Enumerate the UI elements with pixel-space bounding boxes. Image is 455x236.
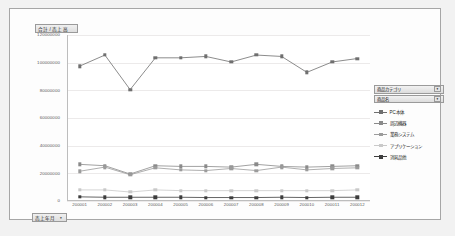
- y-axis-tick-label: 40000000: [40, 143, 60, 148]
- series-marker: [356, 188, 359, 191]
- legend-item[interactable]: アプリケーション: [374, 140, 444, 151]
- series-marker: [103, 188, 106, 191]
- y-axis-tick-label: 0: [57, 198, 60, 203]
- series-marker: [280, 165, 283, 168]
- series-marker: [229, 167, 232, 170]
- series-marker: [103, 53, 106, 56]
- series-lines: [67, 35, 370, 201]
- x-axis-tick-label: 200012: [350, 202, 365, 207]
- x-axis-tick-label: 200003: [123, 202, 138, 207]
- series-marker: [204, 55, 207, 58]
- axis-field-button[interactable]: 売上年月 ▾: [32, 213, 67, 222]
- series-marker: [78, 64, 81, 67]
- series-marker: [103, 196, 106, 199]
- series-marker: [204, 165, 207, 168]
- series-marker: [204, 169, 207, 172]
- plot-area: [67, 35, 370, 201]
- legend-items: PC本体周辺機器業務システムアプリケーション消耗品他: [374, 107, 444, 163]
- legend-marker-icon: [374, 120, 387, 127]
- series-marker: [78, 163, 81, 166]
- legend-item-label: PC本体: [390, 109, 405, 115]
- y-axis-tick-label: 100000000: [37, 60, 60, 65]
- series-marker: [204, 189, 207, 192]
- y-axis-labels: 0200000004000000060000000800000001000000…: [10, 9, 64, 221]
- y-axis-tick-label: 60000000: [40, 115, 60, 120]
- legend-marker-icon: [374, 131, 387, 138]
- legend-marker-icon: [374, 153, 387, 160]
- legend-item-label: 消耗品他: [390, 154, 406, 160]
- x-axis-tick-label: 200006: [198, 202, 213, 207]
- series-marker: [255, 196, 258, 199]
- series-marker: [179, 56, 182, 59]
- series-marker: [78, 170, 81, 173]
- category-filter-arrow-icon: ▾: [434, 86, 441, 92]
- x-axis-tick-label: 200011: [325, 202, 340, 207]
- legend-item[interactable]: 周辺機器: [374, 118, 444, 129]
- series-marker: [305, 196, 308, 199]
- legend-item[interactable]: 業務システム: [374, 129, 444, 140]
- y-axis-tick-label: 80000000: [40, 88, 60, 93]
- legend-item[interactable]: 消耗品他: [374, 151, 444, 162]
- series-marker: [330, 189, 333, 192]
- category-filter-button[interactable]: 商品カテゴリ ▾: [374, 85, 444, 94]
- pivotchart-app: 合計 / 売上高 0200000004000000060000000800000…: [0, 0, 455, 236]
- product-filter-label: 商品名: [377, 96, 434, 102]
- x-axis-tick-label: 200008: [249, 202, 264, 207]
- x-axis-tick-label: 200004: [148, 202, 163, 207]
- axis-field-label: 売上年月: [35, 215, 58, 221]
- category-filter-label: 商品カテゴリ: [377, 86, 434, 92]
- series-marker: [128, 173, 131, 176]
- x-axis-tick-label: 200009: [274, 202, 289, 207]
- series-marker: [255, 189, 258, 192]
- legend-marker-icon: [374, 109, 387, 116]
- series-marker: [330, 196, 333, 199]
- series-marker: [128, 196, 131, 199]
- series-marker: [305, 189, 308, 192]
- y-axis-tick-label: 120000000: [37, 32, 60, 37]
- legend-item-label: アプリケーション: [390, 143, 423, 149]
- x-axis-tick-label: 200007: [224, 202, 239, 207]
- series-marker: [356, 196, 359, 199]
- series-marker: [154, 196, 157, 199]
- series-marker: [179, 168, 182, 171]
- series-marker: [330, 167, 333, 170]
- x-axis-line: [67, 200, 370, 201]
- series-marker: [356, 57, 359, 60]
- series-marker: [330, 60, 333, 63]
- series-marker: [128, 190, 131, 193]
- axis-field-arrow-icon: ▾: [58, 216, 64, 220]
- x-axis-tick-label: 200002: [97, 202, 112, 207]
- x-axis-tick-label: 200010: [299, 202, 314, 207]
- legend-panel: 商品カテゴリ ▾ 商品名 ▾ PC本体周辺機器業務システムアプリケーション消耗品…: [374, 85, 444, 165]
- series-marker: [204, 196, 207, 199]
- x-axis-tick-label: 200001: [72, 202, 87, 207]
- series-marker: [229, 189, 232, 192]
- series-marker: [305, 168, 308, 171]
- series-marker: [280, 196, 283, 199]
- legend-marker-icon: [374, 142, 387, 149]
- x-axis-labels: 2000012000022000032000042000052000062000…: [67, 202, 370, 212]
- series-line: [80, 190, 358, 192]
- legend-item[interactable]: PC本体: [374, 107, 444, 118]
- series-marker: [179, 196, 182, 199]
- series-marker: [255, 169, 258, 172]
- legend-item-label: 周辺機器: [390, 120, 406, 126]
- series-marker: [305, 71, 308, 74]
- series-marker: [229, 196, 232, 199]
- series-marker: [154, 166, 157, 169]
- chart-object-frame: 合計 / 売上高 0200000004000000060000000800000…: [9, 8, 441, 220]
- series-marker: [280, 189, 283, 192]
- series-line: [80, 197, 358, 198]
- x-axis-tick-label: 200005: [173, 202, 188, 207]
- series-marker: [103, 165, 106, 168]
- series-line: [80, 55, 358, 90]
- series-marker: [128, 88, 131, 91]
- product-filter-button[interactable]: 商品名 ▾: [374, 95, 444, 104]
- series-marker: [255, 53, 258, 56]
- series-marker: [154, 188, 157, 191]
- series-marker: [280, 55, 283, 58]
- series-marker: [255, 163, 258, 166]
- y-axis-tick-label: 20000000: [40, 171, 60, 176]
- product-filter-arrow-icon: ▾: [434, 96, 441, 102]
- series-marker: [356, 166, 359, 169]
